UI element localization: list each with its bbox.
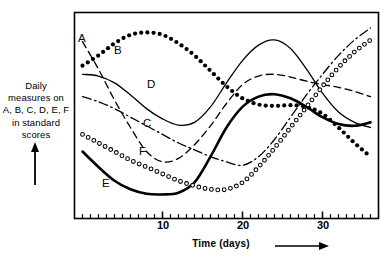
marker-open-circle: [155, 170, 159, 174]
curve-label-f: F: [139, 145, 146, 157]
marker-open-circle: [222, 188, 226, 192]
marker-open-circle: [228, 186, 232, 190]
marker-open-circle: [98, 142, 102, 146]
marker-filled-dot: [240, 96, 244, 100]
marker-open-circle: [250, 173, 254, 177]
marker-open-circle: [191, 183, 195, 187]
marker-filled-dot: [184, 47, 188, 51]
x-axis-ticks: [83, 212, 379, 219]
x-axis-caption: Time (days): [178, 238, 264, 250]
marker-filled-dot: [342, 130, 346, 134]
series-curve-b-guide: [83, 32, 371, 156]
x-tick-label-30: 30: [311, 219, 335, 231]
marker-filled-dot: [96, 54, 100, 58]
marker-open-circle: [267, 153, 271, 157]
marker-open-circle: [245, 177, 249, 181]
y-axis-caption-line-1: Daily: [2, 80, 70, 92]
marker-open-circle: [368, 39, 372, 43]
marker-filled-dot: [127, 33, 131, 37]
marker-open-circle: [167, 175, 171, 179]
marker-open-circle: [287, 128, 291, 132]
y-axis-caption-line-2: measures on: [2, 92, 70, 104]
marker-open-circle: [271, 149, 275, 153]
y-axis-caption-line-4: in standard: [2, 117, 70, 129]
marker-open-circle: [339, 63, 343, 67]
curve-label-c: C: [143, 117, 151, 129]
marker-filled-dot: [360, 147, 364, 151]
marker-open-circle: [161, 172, 165, 176]
marker-open-circle: [343, 59, 347, 63]
marker-filled-dot: [133, 31, 137, 35]
marker-filled-dot: [174, 40, 178, 44]
series-layer: [80, 28, 371, 195]
marker-filled-dot: [203, 63, 207, 67]
marker-filled-dot: [80, 64, 84, 68]
marker-open-circle: [179, 180, 183, 184]
marker-filled-dot: [139, 31, 143, 35]
marker-filled-dot: [276, 104, 280, 108]
marker-filled-dot: [151, 31, 155, 35]
marker-open-circle: [143, 165, 147, 169]
marker-filled-dot: [189, 51, 193, 55]
marker-filled-dot: [101, 50, 105, 54]
series-curve-f: [81, 39, 372, 192]
marker-open-circle: [137, 162, 141, 166]
marker-open-circle: [185, 182, 189, 186]
marker-open-circle: [209, 188, 213, 192]
marker-open-circle: [126, 157, 130, 161]
marker-open-circle: [334, 68, 338, 72]
marker-open-circle: [330, 73, 334, 77]
marker-open-circle: [290, 123, 294, 127]
marker-open-circle: [302, 108, 306, 112]
marker-filled-dot: [194, 55, 198, 59]
marker-filled-dot: [106, 46, 110, 50]
marker-open-circle: [306, 103, 310, 107]
marker-filled-dot: [282, 103, 286, 107]
series-curve-d: [83, 40, 371, 128]
x-axis-arrow-icon: [275, 242, 329, 250]
marker-filled-dot: [216, 76, 220, 80]
y-axis-caption-line-3: A, B, C, D, E, F: [2, 104, 70, 116]
marker-filled-dot: [207, 68, 211, 72]
y-axis-caption: Daily measures on A, B, C, D, E, F in st…: [2, 80, 70, 141]
marker-filled-dot: [116, 39, 120, 43]
marker-filled-dot: [230, 89, 234, 93]
marker-filled-dot: [212, 72, 216, 76]
y-axis-caption-line-5: scores: [2, 129, 70, 141]
marker-open-circle: [294, 118, 298, 122]
marker-open-circle: [240, 181, 244, 185]
marker-open-circle: [234, 184, 238, 188]
marker-open-circle: [298, 113, 302, 117]
marker-filled-dot: [337, 126, 341, 130]
marker-open-circle: [322, 83, 326, 87]
marker-open-circle: [173, 177, 177, 181]
curve-label-d: D: [147, 78, 155, 90]
marker-open-circle: [318, 88, 322, 92]
marker-filled-dot: [355, 143, 359, 147]
marker-filled-dot: [288, 103, 292, 107]
marker-filled-dot: [145, 30, 149, 34]
marker-open-circle: [109, 148, 113, 152]
marker-open-circle: [357, 46, 361, 50]
marker-filled-dot: [350, 139, 354, 143]
marker-open-circle: [314, 93, 318, 97]
marker-open-circle: [81, 132, 85, 136]
series-curve-a: [83, 42, 371, 163]
marker-filled-dot: [158, 32, 162, 36]
marker-open-circle: [363, 42, 367, 46]
marker-open-circle: [149, 167, 153, 171]
marker-filled-dot: [179, 43, 183, 47]
marker-open-circle: [131, 160, 135, 164]
marker-open-circle: [326, 78, 330, 82]
marker-open-circle: [258, 163, 262, 167]
curve-label-b: B: [114, 44, 122, 56]
series-curve-b: [80, 30, 368, 155]
series-curve-e: [83, 94, 371, 194]
marker-filled-dot: [235, 93, 239, 97]
marker-filled-dot: [365, 151, 369, 155]
marker-filled-dot: [264, 103, 268, 107]
figure-container: Daily measures on A, B, C, D, E, F in st…: [0, 0, 389, 259]
marker-filled-dot: [86, 60, 90, 64]
curve-label-e: E: [102, 177, 110, 189]
marker-open-circle: [352, 50, 356, 54]
